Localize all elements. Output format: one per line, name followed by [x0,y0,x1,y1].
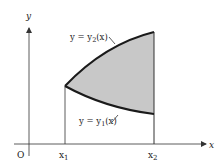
area-between-curves-diagram: y x O x1 x2 y = y2(x) y = y1(x) [0,0,221,168]
upper-curve-leader [109,37,115,44]
x-axis-label: x [209,140,214,150]
origin-label: O [17,150,24,160]
y-axis-label: y [25,11,32,21]
x2-label: x2 [148,150,158,162]
x1-label: x1 [59,150,69,162]
upper-curve-label: y = y2(x) [69,32,108,44]
lower-curve-label: y = y1(x) [78,116,117,128]
